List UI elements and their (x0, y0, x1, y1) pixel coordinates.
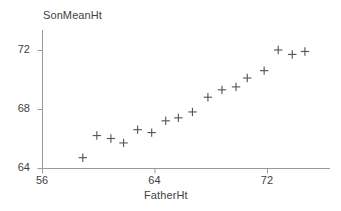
data-point-markers (79, 46, 310, 162)
data-point-marker (288, 50, 296, 58)
data-point-marker (147, 128, 155, 136)
data-point-marker (260, 66, 268, 74)
data-point-marker (93, 131, 101, 139)
data-point-marker (119, 139, 127, 147)
data-point-marker (218, 86, 226, 94)
data-point-marker (107, 134, 115, 142)
data-point-marker (162, 117, 170, 125)
data-point-marker (301, 47, 309, 55)
axis-lines (43, 30, 331, 169)
scatter-plot-figure: SonMeanHt FatherHt 646872 566472 (0, 0, 341, 211)
x-axis-tick-label: 64 (141, 174, 167, 186)
y-axis-tick-label: 64 (4, 161, 30, 173)
data-point-marker (274, 46, 282, 54)
y-axis-tick-label: 68 (4, 102, 30, 114)
x-axis-title: FatherHt (144, 189, 188, 201)
data-point-marker (188, 108, 196, 116)
x-axis-tick-label: 56 (29, 174, 55, 186)
y-axis-tick-label: 72 (4, 43, 30, 55)
data-point-marker (133, 125, 141, 133)
data-point-marker (79, 153, 87, 161)
x-axis-tick-label: 72 (254, 174, 280, 186)
y-axis-title: SonMeanHt (43, 9, 102, 21)
data-point-marker (174, 114, 182, 122)
data-point-marker (243, 74, 251, 82)
data-point-marker (204, 93, 212, 101)
data-point-marker (232, 83, 240, 91)
tick-marks (38, 51, 268, 174)
